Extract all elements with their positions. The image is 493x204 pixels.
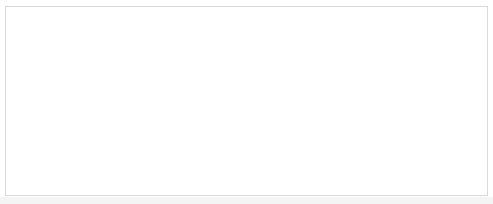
figure xyxy=(0,0,493,204)
